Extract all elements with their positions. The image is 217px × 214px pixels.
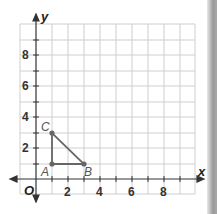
point-a (49, 161, 54, 166)
point-c (49, 130, 54, 135)
x-tick-label: 2 (64, 185, 71, 199)
y-tick-label: 6 (22, 79, 29, 93)
point-b-label: B (84, 165, 92, 179)
y-tick-label: 2 (22, 141, 29, 155)
coordinate-grid: y x O 2 4 6 8 2 4 6 8 A B C (0, 0, 217, 214)
y-axis-label: y (40, 9, 49, 24)
point-a-label: A (40, 165, 49, 179)
y-tick-label: 8 (22, 48, 29, 62)
x-axis-arrow-left-icon (10, 176, 17, 182)
x-tick-label: 6 (128, 185, 135, 199)
axes (10, 14, 204, 202)
y-tick-label: 4 (22, 110, 29, 124)
point-c-label: C (41, 120, 50, 134)
origin-label: O (24, 183, 34, 198)
x-tick-label: 4 (96, 185, 103, 199)
y-axis-arrow-icon (33, 14, 39, 21)
x-axis-label: x (197, 164, 206, 179)
x-tick-label: 8 (160, 185, 167, 199)
